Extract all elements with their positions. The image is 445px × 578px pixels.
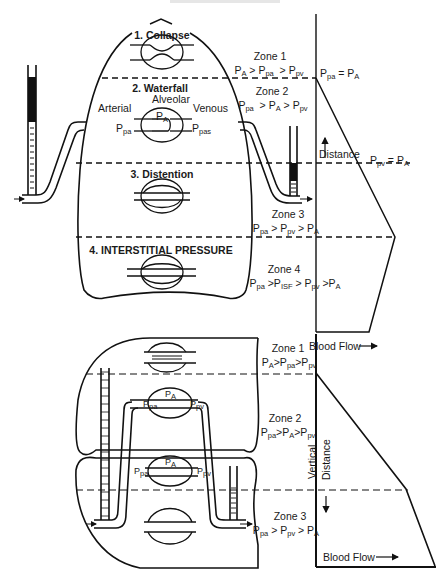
lower-label-ppv-2: Ppv bbox=[197, 465, 211, 480]
lower-zone1-formula: PA>Ppa>Ppv bbox=[262, 356, 317, 372]
upper-zone1-title: Zone 1 bbox=[254, 50, 287, 62]
label-ppa: Ppa bbox=[116, 122, 131, 138]
boundary-label-ppv-eq-pA: Ppv = PA bbox=[370, 154, 409, 170]
lower-zone-boundaries bbox=[76, 374, 408, 490]
lower-capillary-zone3 bbox=[144, 509, 196, 545]
upper-zone3-formula: Ppa > Ppv > PA bbox=[253, 222, 319, 238]
lower-label-ppa-1: Ppa bbox=[143, 398, 157, 413]
lower-zone2-formula: Ppa>PA>Ppv bbox=[261, 426, 316, 442]
capillary-distention bbox=[134, 179, 190, 213]
upper-zone1-formula: PA > Ppa > Ppv bbox=[234, 64, 303, 80]
label-arterial: Arterial bbox=[98, 102, 131, 114]
capillary-interstitial bbox=[127, 255, 196, 289]
lower-label-pA-2: PA bbox=[165, 456, 176, 471]
lower-flow-graph bbox=[316, 334, 436, 567]
label-ppas: Ppas bbox=[192, 122, 211, 138]
label-pA: PA bbox=[156, 110, 168, 126]
west-zones-diagram bbox=[0, 0, 445, 578]
upper-zone4-formula: Ppa >PISF > Ppv >PA bbox=[249, 277, 340, 293]
upper-zone2-title: Zone 2 bbox=[256, 85, 289, 97]
lower-label-ppv-1: Ppv bbox=[190, 398, 204, 413]
arterial-manometer bbox=[14, 65, 86, 203]
lower-zone1-title: Zone 1 bbox=[272, 342, 305, 354]
label-alveolar: Alveolar bbox=[152, 93, 190, 105]
upper-zone4-title: Zone 4 bbox=[268, 263, 301, 275]
upper-flow-graph bbox=[316, 14, 395, 346]
section-title-collapse: 1. Collapse bbox=[134, 29, 189, 41]
upper-lung-outline bbox=[78, 19, 252, 299]
upper-zone3-title: Zone 3 bbox=[272, 208, 305, 220]
section-title-distention: 3. Distention bbox=[130, 168, 193, 180]
label-venous: Venous bbox=[193, 102, 228, 114]
lower-axis-vertical: Vertical bbox=[306, 445, 318, 479]
lower-label-ppa-2: Ppa bbox=[134, 465, 148, 480]
lower-axis-blood-flow: Blood Flow bbox=[323, 551, 375, 563]
section-title-interstitial: 4. INTERSTITIAL PRESSURE bbox=[89, 244, 232, 256]
lower-label-pA-1: PA bbox=[165, 388, 176, 403]
lower-zone2-title: Zone 2 bbox=[269, 412, 302, 424]
lower-capillary-zone1 bbox=[144, 343, 196, 372]
lower-zone3-title: Zone 3 bbox=[274, 510, 307, 522]
boundary-label-ppa-eq-pA: Ppa = PA bbox=[320, 67, 359, 83]
upper-axis-blood-flow: Blood Flow bbox=[309, 340, 361, 352]
lower-capillary-zone2a bbox=[130, 388, 198, 418]
lower-arterial-tube bbox=[86, 368, 138, 528]
lower-zone3-formula: Ppa > Ppv > PA bbox=[253, 524, 319, 540]
lower-axis-distance: Distance bbox=[320, 439, 332, 480]
upper-zone2-formula: Ppa > PA > Ppv bbox=[238, 99, 307, 115]
upper-axis-distance: Distance bbox=[319, 148, 360, 160]
